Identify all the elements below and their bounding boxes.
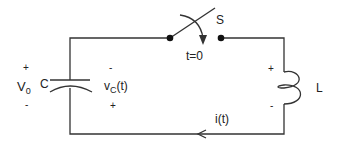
- switch-contact-right: [218, 35, 225, 42]
- circuit-diagram: [0, 0, 338, 147]
- capacitor-plate-curved: [50, 86, 92, 92]
- wire-bottom: [70, 88, 284, 134]
- inductor-plus-sign: +: [268, 64, 274, 74]
- wire-top-right: [221, 38, 284, 72]
- source-minus-sign: -: [25, 100, 28, 110]
- source-voltage-label: V0: [17, 80, 31, 96]
- inductor-minus-sign: -: [270, 101, 273, 111]
- cap-voltage-arg: (t): [117, 79, 128, 93]
- switch-blade: [170, 8, 215, 38]
- source-voltage-subscript: 0: [26, 86, 31, 96]
- switch-arrow-head: [199, 35, 207, 45]
- switch-contact-left: [167, 35, 174, 42]
- inductor-coil: [278, 71, 301, 104]
- switch-label: S: [216, 14, 224, 26]
- inductor-label: L: [316, 82, 323, 94]
- capacitor-label: C: [40, 78, 49, 90]
- wire-top-left: [70, 38, 170, 80]
- current-label: i(t): [215, 113, 229, 125]
- switch-time-label: t=0: [186, 50, 203, 62]
- source-voltage-symbol: V: [17, 79, 26, 94]
- source-plus-sign: +: [23, 63, 29, 73]
- cap-plus-sign: +: [110, 101, 116, 111]
- cap-minus-sign: -: [109, 63, 112, 73]
- cap-voltage-label: vC(t): [104, 80, 128, 95]
